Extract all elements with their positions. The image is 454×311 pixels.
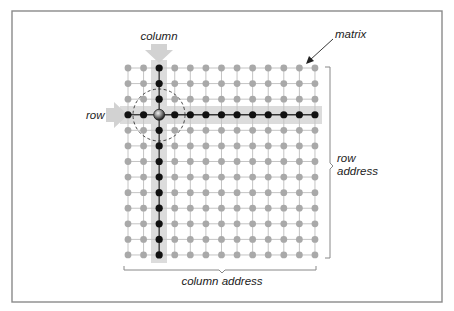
cell-dot (312, 205, 319, 212)
cell-dot (156, 96, 163, 103)
cell-dot (249, 111, 256, 118)
cell-dot (140, 252, 147, 259)
cell-dot (187, 111, 194, 118)
cell-dot (203, 252, 210, 259)
cell-dot (296, 158, 303, 165)
cell-dot (187, 189, 194, 196)
cell-dot (156, 127, 163, 134)
cell-dot (203, 143, 210, 150)
cell-dot (125, 174, 132, 181)
cell-dot (171, 220, 178, 227)
cell-dot (265, 127, 272, 134)
cell-dot (202, 111, 209, 118)
column-address-label: column address (181, 275, 262, 287)
cell-dot (156, 189, 163, 196)
cell-dot (296, 252, 303, 259)
cell-dot (280, 189, 287, 196)
cell-dot (218, 96, 225, 103)
cell-dot (312, 143, 319, 150)
cell-dot (156, 173, 163, 180)
cell-dot (296, 174, 303, 181)
cell-dot (140, 65, 147, 72)
cell-dot (203, 205, 210, 212)
cell-dot (124, 111, 131, 118)
cell-dot (203, 236, 210, 243)
cell-dot (249, 96, 256, 103)
cell-dot (312, 80, 319, 87)
cell-dot (156, 158, 163, 165)
cell-dot (218, 174, 225, 181)
cell-dot (265, 158, 272, 165)
cell-dot (249, 143, 256, 150)
cell-dot (234, 96, 241, 103)
cell-dot (296, 205, 303, 212)
cell-dot (249, 174, 256, 181)
cell-dot (125, 220, 132, 227)
cell-dot (125, 236, 132, 243)
cell-dot (156, 236, 163, 243)
cell-dot (312, 65, 319, 72)
cell-dot (140, 220, 147, 227)
cell-dot (125, 143, 132, 150)
cell-dot (187, 174, 194, 181)
cell-dot (280, 96, 287, 103)
cell-dot (140, 80, 147, 87)
cell-dot (249, 252, 256, 259)
cell-dot (125, 96, 132, 103)
cell-dot (312, 252, 319, 259)
cell-dot (218, 236, 225, 243)
cell-dot (265, 189, 272, 196)
cell-dot (280, 127, 287, 134)
cell-dot (296, 236, 303, 243)
cell-dot (156, 251, 163, 258)
cell-dot (125, 158, 132, 165)
cell-dot (265, 252, 272, 259)
cell-dot (312, 174, 319, 181)
cell-dot (125, 252, 132, 259)
cell-dot (125, 205, 132, 212)
cell-dot (280, 220, 287, 227)
cell-dot (280, 236, 287, 243)
cell-dot (187, 80, 194, 87)
cell-dot (218, 252, 225, 259)
cell-dot (187, 65, 194, 72)
cell-dot (125, 127, 132, 134)
cell-dot (249, 205, 256, 212)
matrix-label: matrix (335, 28, 368, 40)
cell-dot (171, 65, 178, 72)
cell-dot (203, 189, 210, 196)
cell-dot (218, 111, 225, 118)
cell-dot (171, 80, 178, 87)
cell-dot (140, 127, 147, 134)
cell-dot (312, 127, 319, 134)
cell-dot (280, 205, 287, 212)
cell-dot (140, 236, 147, 243)
cell-dot (171, 96, 178, 103)
cell-dot (171, 174, 178, 181)
cell-dot (187, 158, 194, 165)
cell-dot (156, 205, 163, 212)
cell-dot (296, 189, 303, 196)
cell-dot (218, 220, 225, 227)
cell-dot (280, 158, 287, 165)
cell-dot (187, 220, 194, 227)
cell-dot (234, 65, 241, 72)
cell-dot (296, 220, 303, 227)
diagram-frame (12, 11, 442, 302)
cell-dot (171, 127, 178, 134)
cell-dot (140, 205, 147, 212)
cell-dot (171, 143, 178, 150)
matrix-diagram: column row matrix row address column add… (0, 0, 454, 311)
cell-dot (312, 158, 319, 165)
cell-dot (218, 65, 225, 72)
cell-dot (265, 65, 272, 72)
cell-dot (296, 143, 303, 150)
cell-dot (125, 65, 132, 72)
row-label: row (86, 109, 105, 121)
cell-dot (265, 80, 272, 87)
cell-dot (234, 143, 241, 150)
cell-dot (234, 127, 241, 134)
cell-dot (265, 236, 272, 243)
cell-dot (171, 205, 178, 212)
cell-dot (249, 127, 256, 134)
